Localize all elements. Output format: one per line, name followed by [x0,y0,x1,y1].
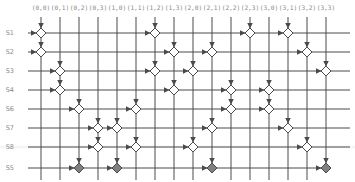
diamond-node [207,47,217,57]
column-label: (0,0) [32,4,51,11]
row-label: S4 [6,86,14,94]
diamond-node [36,28,46,38]
diamond-node [207,123,217,133]
diamond-node [131,104,141,114]
filled-diamond-node [112,163,122,173]
grid-diagram: (0,0)(0,1)(0,2)(0,3)(1,0)(1,1)(1,2)(1,3)… [0,0,355,182]
row-label: S6 [6,105,14,113]
diamond-node [150,28,160,38]
nodes [36,28,331,173]
diamond-node [55,66,65,76]
diamond-node [283,28,293,38]
diamond-node [188,142,198,152]
column-label: (2,3) [241,4,260,11]
diamond-node [169,85,179,95]
diamond-node [93,123,103,133]
diamond-node [74,104,84,114]
diamond-node [188,66,198,76]
column-lines [41,17,326,180]
row-label: S7 [6,124,14,132]
diamond-node [264,104,274,114]
diamond-node [245,28,255,38]
diamond-node [150,66,160,76]
column-label: (3,1) [279,4,298,11]
diamond-node [131,142,141,152]
column-label: (1,2) [146,4,165,11]
row-labels: S1S2S3S4S6S7S8S5 [6,29,14,172]
column-label: (1,3) [165,4,184,11]
row-label: S5 [6,164,14,172]
diamond-node [93,142,103,152]
column-label: (3,2) [298,4,317,11]
filled-diamond-node [207,163,217,173]
diamond-node [302,47,312,57]
column-label: (1,1) [127,4,146,11]
filled-diamond-node [321,163,331,173]
column-label: (2,1) [203,4,222,11]
column-label: (2,0) [184,4,203,11]
column-label: (2,2) [222,4,241,11]
column-label: (0,3) [89,4,108,11]
row-label: S2 [6,48,14,56]
diamond-node [169,47,179,57]
column-label: (3,0) [260,4,279,11]
row-label: S8 [6,143,14,151]
diamond-node [264,85,274,95]
diamond-node [112,123,122,133]
diamond-node [226,85,236,95]
diamond-node [36,47,46,57]
column-labels: (0,0)(0,1)(0,2)(0,3)(1,0)(1,1)(1,2)(1,3)… [32,4,336,11]
row-label: S1 [6,29,14,37]
column-label: (0,1) [51,4,70,11]
diamond-node [55,85,65,95]
column-label: (3,3) [317,4,336,11]
column-label: (1,0) [108,4,127,11]
diamond-node [321,66,331,76]
column-label: (0,2) [70,4,89,11]
diamond-node [302,142,312,152]
diamond-node [226,104,236,114]
row-label: S3 [6,67,14,75]
filled-diamond-node [74,163,84,173]
diamond-node [283,123,293,133]
